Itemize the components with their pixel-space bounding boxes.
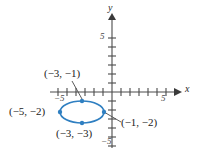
- x-axis-arrowhead: [174, 88, 182, 96]
- label-bottom-vertex: (−3, −3): [56, 128, 92, 139]
- ellipse-curve: [60, 101, 104, 123]
- label-left-vertex: (−5, −2): [9, 106, 45, 117]
- point-left-vertex: [58, 110, 62, 114]
- y-tick-label-minus-5: −5: [101, 137, 112, 146]
- y-tick-label-5: 5: [100, 32, 105, 41]
- x-tick-label-minus-5: −5: [54, 94, 65, 103]
- y-axis: [108, 13, 116, 148]
- coordinate-plane-graphic: [0, 0, 198, 163]
- x-tick-label-5: 5: [161, 94, 166, 103]
- point-top-vertex: [80, 99, 84, 103]
- leader-line-top-vertex: [72, 81, 82, 99]
- point-right-vertex: [102, 110, 106, 114]
- y-axis-arrowhead: [108, 13, 116, 20]
- y-axis-label: y: [108, 3, 112, 13]
- point-bottom-vertex: [80, 121, 84, 125]
- ellipse-graph-figure: y x 5 −5 −5 5 (−3, −1) (−5, −2) (−3, −3)…: [0, 0, 198, 163]
- label-right-vertex: (−1, −2): [121, 117, 157, 128]
- label-top-vertex: (−3, −1): [44, 68, 80, 79]
- x-axis-label: x: [185, 84, 189, 94]
